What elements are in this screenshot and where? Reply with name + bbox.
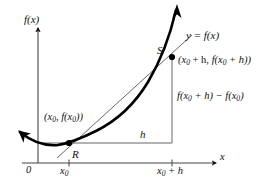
curve-equation-label: y = f(x) xyxy=(186,30,219,41)
point-marker-s xyxy=(169,54,175,60)
point-marker-r xyxy=(66,140,72,146)
point-label-r: R xyxy=(72,149,79,160)
coords-s-x-tail: + h, xyxy=(190,54,212,65)
curve-top-arrowhead xyxy=(172,4,181,18)
x-tick-label-x0-plus-h: x0 + h xyxy=(157,166,183,178)
tick-x0-sub: 0 xyxy=(65,169,69,178)
coords-s-y: f(x xyxy=(212,54,223,65)
rise-close: ) xyxy=(240,90,244,101)
x-tick-label-x0: x0 xyxy=(60,166,68,178)
rise-annotation-label: f(x0 + h) − f(x0) xyxy=(177,91,244,103)
tick-x0h-tail: + h xyxy=(165,165,183,176)
curve-equation-lhs: y = xyxy=(186,29,204,41)
origin-label: 0 xyxy=(26,165,31,176)
point-coordinates-s: (x0 + h, f(x0 + h)) xyxy=(178,55,251,67)
run-annotation-label: h xyxy=(140,129,146,140)
curve-equation-rhs: f(x) xyxy=(204,29,219,41)
rise-open: f(x xyxy=(177,90,188,101)
rise-mid: + h) − f(x xyxy=(192,90,237,101)
function-curve xyxy=(20,10,176,145)
coords-r-close: )) xyxy=(76,111,83,122)
x-axis-label: x xyxy=(220,152,225,163)
point-label-s: S xyxy=(157,45,163,56)
coords-r-y: f(x xyxy=(61,111,72,122)
secant-line-figure: f(x) x y = f(x) S (x0 + h, f(x0 + h)) R … xyxy=(0,0,273,188)
coords-s-y-tail: + h)) xyxy=(226,54,251,65)
y-axis-label: f(x) xyxy=(24,14,39,25)
point-coordinates-r: (x0, f(x0)) xyxy=(44,112,83,124)
